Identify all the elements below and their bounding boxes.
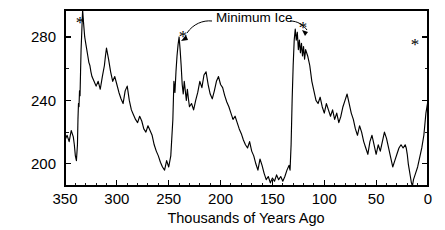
x-tick-label-350: 350 [52,190,77,207]
x-tick-label-50: 50 [368,190,385,207]
x-tick-label-150: 150 [260,190,285,207]
plot-area: 350300250200150100500 200240280 Minimum … [0,0,445,230]
x-tick-label-300: 300 [104,190,129,207]
y-tick-label-240: 240 [31,92,56,109]
x-tick-label-0: 0 [424,190,432,207]
y-tick-label-280: 280 [31,28,56,45]
minimum-ice-label: Minimum Ice [216,10,293,25]
x-tick-label-100: 100 [312,190,337,207]
x-axis-title: Thousands of Years Ago [167,210,324,226]
star-marker-1: * [76,13,85,32]
star-marker-2: * [179,27,188,46]
star-marker-3: * [299,18,308,37]
co2-ice-core-figure: CO2 (parts per million) 3503002502001501… [0,0,445,230]
y-tick-label-200: 200 [31,155,56,172]
star-marker-4: * [411,35,420,54]
x-tick-label-200: 200 [208,190,233,207]
x-tick-label-250: 250 [156,190,181,207]
